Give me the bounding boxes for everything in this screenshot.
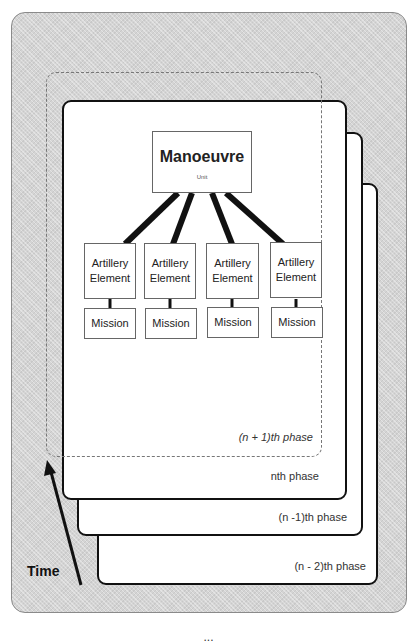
mission-label: Mission [214, 315, 251, 330]
element-label: Artillery [92, 256, 129, 271]
element-label: Element [276, 270, 316, 285]
element-label: Element [90, 271, 130, 286]
mission-node: Mission [207, 307, 259, 338]
element-label: Artillery [278, 255, 315, 270]
time-axis-label: Time [27, 563, 59, 579]
artillery-element-node: Artillery Element [84, 243, 136, 299]
manoeuvre-unit-node: Manoeuvre Unit [152, 131, 252, 193]
figure-caption-cropped: ... [0, 630, 417, 644]
artillery-element-node: Artillery Element [144, 243, 196, 299]
mission-node: Mission [84, 308, 136, 339]
artillery-element-node: Artillery Element [270, 242, 322, 298]
mission-label: Mission [91, 316, 128, 331]
element-label: Artillery [214, 256, 251, 271]
mission-node: Mission [271, 307, 323, 338]
element-label: Element [212, 271, 252, 286]
mission-label: Mission [278, 315, 315, 330]
artillery-element-node: Artillery Element [206, 243, 259, 299]
mission-label: Mission [152, 316, 189, 331]
mission-node: Mission [145, 308, 197, 339]
element-label: Element [150, 271, 190, 286]
unit-label: Unit [197, 170, 208, 185]
manoeuvre-label: Manoeuvre [160, 149, 244, 164]
element-label: Artillery [152, 256, 189, 271]
